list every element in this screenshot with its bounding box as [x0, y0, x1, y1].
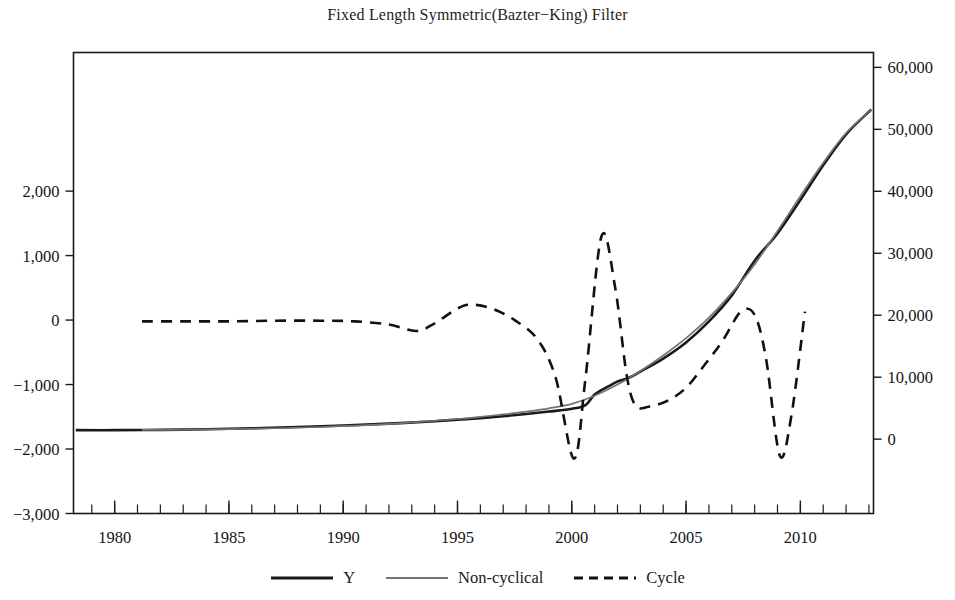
legend-item-y[interactable]: Y: [270, 568, 355, 588]
x-axis-tick-label: 1980: [98, 528, 131, 547]
y-axis-right-tick-label: 30,000: [888, 244, 933, 263]
legend-item-non-cyclical[interactable]: Non-cyclical: [385, 568, 543, 588]
y-axis-right-tick-label: 40,000: [888, 182, 933, 201]
y-axis-left-tick-label: −1,000: [13, 376, 59, 395]
x-axis-tick-label: 2010: [784, 528, 817, 547]
x-axis-tick-label: 1985: [212, 528, 245, 547]
legend-label: Non-cyclical: [458, 568, 543, 588]
y-axis-right-tick-label: 60,000: [888, 58, 933, 77]
series-line-cycle: [142, 233, 805, 459]
series-line-non-cyclical: [142, 110, 871, 430]
plot-canvas: 2,0001,0000−1,000−2,000−3,00060,00050,00…: [0, 0, 955, 600]
tick-labels-layer: 2,0001,0000−1,000−2,000−3,00060,00050,00…: [13, 58, 933, 546]
x-axis-tick-label: 2005: [670, 528, 703, 547]
series-layer: [76, 110, 871, 459]
legend-label: Cycle: [646, 568, 685, 588]
legend-item-cycle[interactable]: Cycle: [573, 568, 685, 588]
y-axis-left-tick-label: −3,000: [13, 505, 59, 524]
ticks-layer: [66, 67, 882, 513]
legend-swatch-y: [270, 572, 334, 584]
x-axis-tick-label: 1995: [441, 528, 474, 547]
y-axis-left-tick-label: 0: [51, 311, 59, 330]
chart-legend: YNon-cyclicalCycle: [0, 568, 955, 588]
legend-swatch-non-cyclical: [385, 572, 449, 584]
y-axis-left-tick-label: 1,000: [22, 247, 59, 266]
y-axis-right-tick-label: 10,000: [888, 368, 933, 387]
axes-frame: [74, 53, 874, 514]
chart-figure: Fixed Length Symmetric(Bazter−King) Filt…: [0, 0, 955, 600]
y-axis-right-tick-label: 0: [888, 430, 896, 449]
y-axis-right-tick-label: 50,000: [888, 120, 933, 139]
y-axis-left-tick-label: −2,000: [13, 440, 59, 459]
series-line-y: [76, 110, 871, 431]
legend-swatch-cycle: [573, 572, 637, 584]
y-axis-left-tick-label: 2,000: [22, 182, 59, 201]
legend-label: Y: [343, 568, 355, 588]
y-axis-right-tick-label: 20,000: [888, 306, 933, 325]
x-axis-tick-label: 1990: [327, 528, 360, 547]
x-axis-tick-label: 2000: [555, 528, 588, 547]
